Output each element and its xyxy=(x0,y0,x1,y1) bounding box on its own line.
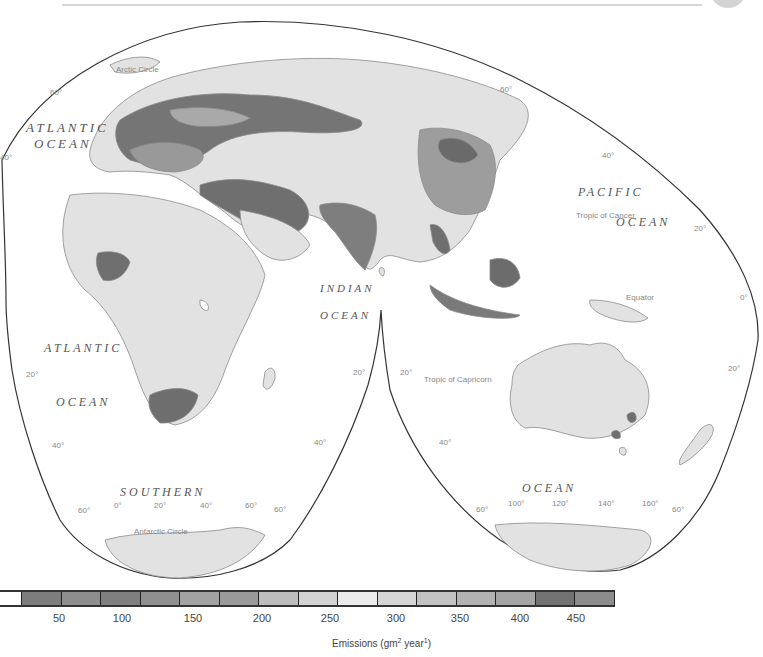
svg-text:Equator: Equator xyxy=(626,293,654,302)
svg-text:40°: 40° xyxy=(52,441,64,450)
legend-title-year: year xyxy=(402,638,424,649)
svg-text:20°: 20° xyxy=(694,224,706,233)
legend-tick-label: 400 xyxy=(511,612,529,624)
legend-title-close: ) xyxy=(428,638,431,649)
svg-text:20°: 20° xyxy=(728,364,740,373)
legend-tick-label: 350 xyxy=(451,612,469,624)
legend-tick-label: 450 xyxy=(567,612,585,624)
legend-tick-labels: 50100150200250300350400450 xyxy=(0,612,763,626)
svg-text:60°: 60° xyxy=(78,506,90,515)
svg-text:140°: 140° xyxy=(598,499,615,508)
svg-text:INDIAN: INDIAN xyxy=(319,282,375,294)
legend-swatch xyxy=(457,592,497,605)
svg-text:SOUTHERN: SOUTHERN xyxy=(120,485,205,499)
svg-text:Arctic Circle: Arctic Circle xyxy=(116,65,159,74)
legend-swatch xyxy=(417,592,457,605)
legend-tick-label: 100 xyxy=(113,612,131,624)
legend-swatch xyxy=(259,592,299,605)
legend-tick-label: 150 xyxy=(184,612,202,624)
legend-title-text: Emissions (gm xyxy=(332,638,398,649)
svg-text:60°: 60° xyxy=(476,505,488,514)
svg-text:40°: 40° xyxy=(200,501,212,510)
svg-text:40°: 40° xyxy=(439,438,451,447)
svg-text:ATLANTIC: ATLANTIC xyxy=(25,120,109,135)
svg-text:60°: 60° xyxy=(274,505,286,514)
svg-text:OCEAN: OCEAN xyxy=(320,309,371,321)
svg-text:PACIFIC: PACIFIC xyxy=(577,185,643,199)
svg-text:40°: 40° xyxy=(602,151,614,160)
legend-title: Emissions (gm2 year1) xyxy=(0,637,763,649)
legend-swatch xyxy=(220,592,260,605)
svg-text:0°: 0° xyxy=(740,293,748,302)
svg-text:60°: 60° xyxy=(672,505,684,514)
legend-swatch xyxy=(62,592,102,605)
legend-swatch xyxy=(575,592,615,605)
legend-swatch xyxy=(180,592,220,605)
world-emissions-map: ATLANTIC OCEAN ATLANTIC OCEAN PACIFIC OC… xyxy=(0,0,763,590)
legend-tick-label: 300 xyxy=(387,612,405,624)
legend-swatch xyxy=(299,592,339,605)
svg-text:60°: 60° xyxy=(500,85,512,94)
legend-swatch xyxy=(378,592,418,605)
svg-text:OCEAN: OCEAN xyxy=(56,395,110,409)
legend-swatch xyxy=(141,592,181,605)
svg-text:0°: 0° xyxy=(114,501,122,510)
legend-swatch xyxy=(0,592,22,605)
svg-text:OCEAN: OCEAN xyxy=(522,481,576,495)
svg-text:Tropic of Cancer: Tropic of Cancer xyxy=(576,211,635,220)
svg-text:60°: 60° xyxy=(245,501,257,510)
antarctica-right xyxy=(495,523,651,571)
svg-text:20°: 20° xyxy=(154,501,166,510)
svg-text:120°: 120° xyxy=(552,499,569,508)
svg-text:40°: 40° xyxy=(314,438,326,447)
legend-tick-label: 200 xyxy=(253,612,271,624)
svg-text:Antarctic Circle: Antarctic Circle xyxy=(134,527,188,536)
emissions-legend-scale xyxy=(0,590,615,607)
legend-tick-label: 50 xyxy=(53,612,65,624)
legend-tick-label: 250 xyxy=(321,612,339,624)
legend-swatch xyxy=(101,592,141,605)
svg-text:160°: 160° xyxy=(642,499,659,508)
svg-text:Tropic of Capricorn: Tropic of Capricorn xyxy=(424,375,492,384)
svg-text:40°: 40° xyxy=(0,153,12,162)
legend-swatch xyxy=(536,592,576,605)
svg-text:60°: 60° xyxy=(50,88,62,97)
svg-text:ATLANTIC: ATLANTIC xyxy=(43,341,122,355)
svg-text:20°: 20° xyxy=(26,370,38,379)
svg-text:20°: 20° xyxy=(353,368,365,377)
legend-swatch xyxy=(496,592,536,605)
svg-text:100°: 100° xyxy=(508,499,525,508)
svg-text:OCEAN: OCEAN xyxy=(34,136,92,151)
svg-text:20°: 20° xyxy=(400,368,412,377)
legend-swatch xyxy=(338,592,378,605)
legend-swatch xyxy=(22,592,62,605)
